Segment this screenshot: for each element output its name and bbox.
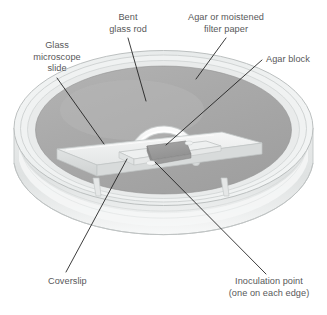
label-bent-glass-rod: Bent glass rod [90, 12, 166, 35]
label-glass-slide-line1: Glass [11, 40, 103, 52]
label-glass-slide-line3: slide [11, 63, 103, 75]
label-bent-glass-rod-line2: glass rod [90, 24, 166, 36]
label-glass-microscope-slide: Glass microscope slide [11, 40, 103, 75]
label-coverslip: Coverslip [48, 276, 87, 288]
label-glass-slide-line2: microscope [11, 52, 103, 64]
label-agar-or-moistened-filter-paper: Agar or moistened filter paper [170, 12, 282, 35]
label-bent-glass-rod-line1: Bent [90, 12, 166, 24]
label-coverslip-line1: Coverslip [48, 276, 87, 288]
label-filter-paper-line1: Agar or moistened [170, 12, 282, 24]
label-agar-block-line1: Agar block [266, 54, 310, 66]
label-inoculation-point-line2: (one on each edge) [213, 288, 325, 300]
label-inoculation-point: Inoculation point (one on each edge) [213, 276, 325, 299]
petri-dish-diagram: Bent glass rod Agar or moistened filter … [0, 0, 327, 315]
label-inoculation-point-line1: Inoculation point [213, 276, 325, 288]
label-filter-paper-line2: filter paper [170, 24, 282, 36]
label-agar-block: Agar block [266, 54, 310, 66]
